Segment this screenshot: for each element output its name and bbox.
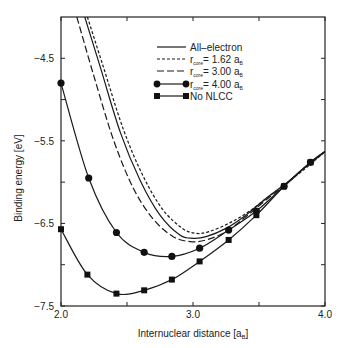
circle-marker (113, 229, 120, 236)
square-marker (183, 93, 189, 99)
legend-label: All–electron (190, 42, 242, 53)
circle-marker (225, 226, 232, 233)
y-axis-label: Binding energy [eV] (13, 134, 24, 222)
y-tick-label: −6.5 (34, 218, 54, 229)
circle-marker (154, 81, 161, 88)
legend: All–electronrcore= 1.62 aBrcore= 3.00 aB… (154, 42, 244, 102)
square-marker (141, 287, 147, 293)
x-axis-label: Internuclear distance [aB] (138, 328, 249, 340)
chart: 2.03.04.0−4.5−5.5−6.5−7.5 All–electronrc… (0, 0, 347, 348)
series-line (61, 152, 325, 295)
square-marker (197, 258, 203, 264)
square-marker (169, 277, 175, 283)
x-tick-label: 2.0 (54, 309, 68, 320)
square-marker (226, 237, 232, 243)
circle-marker (196, 245, 203, 252)
x-tick-label: 3.0 (186, 309, 200, 320)
legend-label: No NLCC (190, 91, 233, 102)
y-tick-label: −4.5 (34, 53, 54, 64)
circle-marker (57, 79, 64, 86)
y-tick-label: −7.5 (34, 301, 54, 312)
series-no-nlcc (58, 152, 325, 297)
square-marker (84, 272, 90, 278)
legend-item: rcore= 3.00 aB (157, 66, 244, 78)
series-r-core-4-00-a-b (57, 79, 325, 260)
y-tick-label: −5.5 (34, 136, 54, 147)
square-marker (113, 291, 119, 297)
square-marker (154, 93, 160, 99)
legend-item: All–electron (157, 42, 242, 53)
legend-item: No NLCC (154, 91, 233, 102)
chart-svg: 2.03.04.0−4.5−5.5−6.5−7.5 All–electronrc… (0, 0, 347, 348)
axis-ticks: 2.03.04.0−4.5−5.5−6.5−7.5 (34, 17, 332, 320)
square-marker (281, 183, 287, 189)
legend-label: rcore= 1.62 aB (190, 54, 244, 66)
circle-marker (85, 174, 92, 181)
series-line (61, 83, 325, 257)
legend-label: rcore= 4.00 aB (190, 79, 244, 91)
legend-item: rcore= 4.00 aB (154, 79, 244, 91)
square-marker (307, 159, 313, 165)
square-marker (58, 226, 64, 232)
legend-item: rcore= 1.62 aB (157, 54, 244, 66)
circle-marker (141, 249, 148, 256)
circle-marker (168, 253, 175, 260)
circle-marker (183, 81, 190, 88)
legend-label: rcore= 3.00 aB (190, 66, 244, 78)
square-marker (253, 212, 259, 218)
x-tick-label: 4.0 (318, 309, 332, 320)
